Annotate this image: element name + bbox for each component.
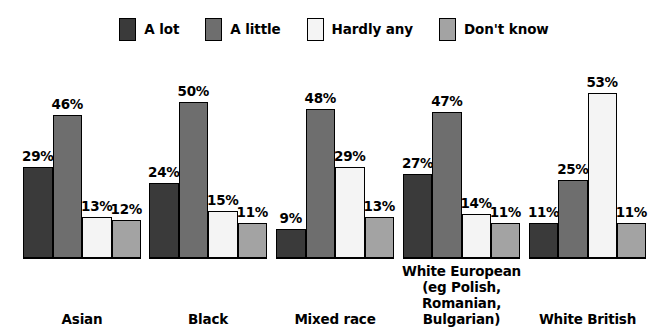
bar-group-white: 11%25%53%11%White British [529,52,646,336]
bar-value-label: 53% [586,76,617,90]
bar-don-t-know[interactable]: 11% [491,57,520,257]
bar-rect[interactable] [529,223,558,257]
group-label: White British [511,312,664,328]
group-label-line: White British [511,312,664,328]
bar-value-label: 25% [557,163,588,177]
bar-value-label: 46% [52,98,83,112]
bar-group-bars: 11%25%53%11% [529,57,646,257]
bar-rect[interactable] [588,93,617,257]
bar-a-lot[interactable]: 9% [276,57,306,257]
bar-value-label: 12% [111,203,142,217]
legend-swatch-a-little [205,18,222,41]
bar-value-label: 15% [207,194,238,208]
bar-don-t-know[interactable]: 11% [617,57,646,257]
bar-value-label: 24% [148,166,179,180]
bar-rect[interactable] [365,217,395,257]
legend-swatch-a-lot [119,18,136,41]
group-baseline [149,257,267,259]
bar-value-label: 50% [178,85,209,99]
group-baseline [276,257,394,259]
legend-item-a-lot: A lot [119,18,179,41]
bar-hardly-any[interactable]: 14% [462,57,491,257]
group-baseline [403,257,520,259]
bar-group-bars: 9%48%29%13% [276,57,394,257]
bar-group-mixed: 9%48%29%13%Mixed race [276,52,394,336]
bar-rect[interactable] [179,102,209,257]
legend-item-hardly-any: Hardly any [307,18,413,41]
bar-don-t-know[interactable]: 12% [112,57,142,257]
legend-item-a-little: A little [205,18,280,41]
bar-group-bars: 29%46%13%12% [23,57,141,257]
bar-group-asian: 29%46%13%12%Asian [23,52,141,336]
bar-rect[interactable] [208,211,238,257]
bar-a-little[interactable]: 47% [432,57,461,257]
bar-value-label: 48% [305,92,336,106]
bar-rect[interactable] [238,223,268,257]
legend-label-hardly-any: Hardly any [332,21,413,37]
bar-rect[interactable] [53,115,83,257]
bar-rect[interactable] [82,217,112,257]
bar-rect[interactable] [432,112,461,257]
bar-rect[interactable] [306,109,336,257]
bar-value-label: 9% [280,212,302,226]
group-baseline [529,257,646,259]
legend-swatch-hardly-any [307,18,324,41]
bar-rect[interactable] [335,167,365,257]
bar-value-label: 13% [364,200,395,214]
bar-value-label: 11% [490,206,521,220]
legend-label-a-little: A little [230,21,280,37]
chart-legend: A lot A little Hardly any Don't know [0,14,668,44]
bar-a-lot[interactable]: 24% [149,57,179,257]
group-baseline [23,257,141,259]
group-label-line: White European [385,264,538,280]
bar-a-lot[interactable]: 29% [23,57,53,257]
bar-value-label: 11% [237,206,268,220]
bar-rect[interactable] [149,183,179,257]
bar-rect[interactable] [617,223,646,257]
bar-value-label: 11% [616,206,647,220]
bar-value-label: 29% [334,150,365,164]
bar-rect[interactable] [112,220,142,257]
legend-item-dont-know: Don't know [439,18,549,41]
bar-value-label: 27% [402,157,433,171]
bar-hardly-any[interactable]: 13% [82,57,112,257]
bar-rect[interactable] [403,174,432,257]
legend-label-a-lot: A lot [144,21,179,37]
bar-a-lot[interactable]: 27% [403,57,432,257]
bar-group-white: 27%47%14%11%White European(eg Polish,Rom… [403,52,520,336]
bar-rect[interactable] [23,167,53,257]
bar-value-label: 13% [81,200,112,214]
bar-rect[interactable] [276,229,306,257]
bar-don-t-know[interactable]: 11% [238,57,268,257]
bar-rect[interactable] [558,180,587,257]
bar-a-little[interactable]: 50% [179,57,209,257]
bar-a-little[interactable]: 46% [53,57,83,257]
group-label-line: (eg Polish, [385,280,538,296]
bar-hardly-any[interactable]: 15% [208,57,238,257]
bar-hardly-any[interactable]: 29% [335,57,365,257]
bar-rect[interactable] [462,214,491,257]
group-label-line: Romanian, [385,296,538,312]
bar-a-little[interactable]: 48% [306,57,336,257]
bar-a-little[interactable]: 25% [558,57,587,257]
legend-swatch-dont-know [439,18,456,41]
legend-label-dont-know: Don't know [464,21,549,37]
bar-hardly-any[interactable]: 53% [588,57,617,257]
bar-value-label: 11% [528,206,559,220]
bar-chart-plot-area: 29%46%13%12%Asian24%50%15%11%Black9%48%2… [0,52,668,336]
bar-group-black: 24%50%15%11%Black [149,52,267,336]
bar-value-label: 47% [431,95,462,109]
bar-value-label: 14% [460,197,491,211]
bar-value-label: 29% [22,150,53,164]
bar-group-bars: 24%50%15%11% [149,57,267,257]
bar-rect[interactable] [491,223,520,257]
bar-group-bars: 27%47%14%11% [403,57,520,257]
bar-a-lot[interactable]: 11% [529,57,558,257]
bar-don-t-know[interactable]: 13% [365,57,395,257]
